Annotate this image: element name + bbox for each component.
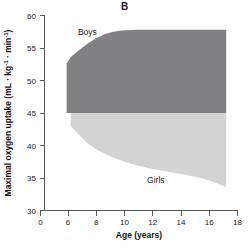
series-label-boys: Boys	[78, 27, 97, 37]
y-tick-label: 55	[27, 44, 36, 53]
x-tick-label: 0	[38, 218, 43, 227]
y-tick-label: 50	[27, 77, 36, 86]
x-axis: 0681012141618	[38, 211, 242, 228]
y-tick-label: 45	[27, 109, 36, 118]
x-axis-title: Age (years)	[116, 230, 162, 240]
y-tick-label: 60	[27, 12, 36, 21]
y-axis: 30354045505560	[27, 12, 44, 216]
x-tick-label: 12	[148, 218, 157, 227]
y-tick-label: 35	[27, 174, 36, 183]
x-tick-label: 8	[94, 218, 99, 227]
y-axis-title: Maximal oxygen uptake (mL · kg-1 · min-1…	[3, 29, 13, 196]
x-tick-label: 18	[233, 218, 242, 227]
series-band-boys	[67, 30, 227, 113]
y-tick-label: 40	[27, 142, 36, 151]
series-label-girls: Girls	[147, 175, 164, 185]
x-tick-label: 14	[177, 218, 186, 227]
x-tick-label: 10	[120, 218, 129, 227]
x-tick-label: 6	[66, 218, 71, 227]
x-tick-label: 16	[205, 218, 214, 227]
chart-plot-area: 30354045505560 0681012141618 Age (years)…	[0, 0, 249, 250]
chart-figure: B 30354045505560 0681012141618 Age (year…	[0, 0, 249, 250]
y-tick-label: 30	[27, 207, 36, 216]
